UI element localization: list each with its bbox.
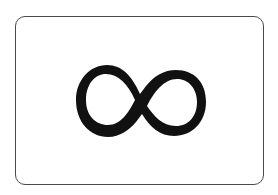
infinity-icon	[74, 62, 208, 140]
